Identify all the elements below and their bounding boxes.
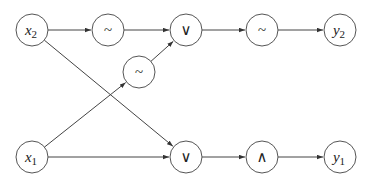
node-label: ∨ [181,149,192,165]
nodes-layer: x2~∨~y2~x1∨∧y1 [16,14,356,173]
node-label: ∨ [181,22,192,38]
node-label: ~ [135,64,143,80]
node-label: ~ [104,22,112,38]
node-x2: x2 [16,14,48,46]
node-n_tilde_mid: ~ [123,56,155,88]
edge-x1-to-n_tilde_mid [45,83,126,147]
node-x1: x1 [16,141,48,173]
edges-layer [44,30,323,157]
edge-x2-to-n_or_bottom [44,40,173,146]
edge-n_tilde_mid-to-n_or_top [151,41,173,61]
node-n_tilde_top: ~ [92,14,124,46]
diagram-canvas: x2~∨~y2~x1∨∧y1 [0,0,374,184]
node-y2: y2 [324,14,356,46]
node-y1: y1 [324,141,356,173]
node-n_or_bottom: ∨ [170,141,202,173]
node-n_and_bottom: ∧ [246,141,278,173]
node-n_tilde_right: ~ [246,14,278,46]
node-label: ~ [258,22,266,38]
node-n_or_top: ∨ [170,14,202,46]
node-label: ∧ [257,149,268,165]
